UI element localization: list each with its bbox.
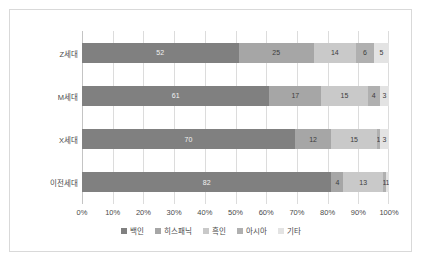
x-axis-tick: 90% xyxy=(351,208,366,217)
legend-label: 히스패닉 xyxy=(164,225,192,236)
bar-segment: 4 xyxy=(368,86,380,106)
legend-swatch-icon xyxy=(203,228,209,234)
chart-legend: 백인히스패닉흑인아시아기타 xyxy=(10,225,411,236)
bar-segment: 52 xyxy=(82,43,239,63)
legend-item[interactable]: 히스패닉 xyxy=(155,225,192,236)
legend-item[interactable]: 백인 xyxy=(121,225,144,236)
bars-layer: 5225146561171543701215138241311 xyxy=(82,31,389,204)
legend-label: 기타 xyxy=(287,225,301,236)
legend-item[interactable]: 아시아 xyxy=(237,225,267,236)
bar-row: 52251465 xyxy=(82,43,389,63)
x-axis-tick: 70% xyxy=(289,208,304,217)
category-label: Z세대 xyxy=(12,48,78,59)
x-axis-tick: 60% xyxy=(259,208,274,217)
x-axis-tick: 50% xyxy=(228,208,243,217)
x-axis-tick: 40% xyxy=(197,208,212,217)
bar-segment: 17 xyxy=(269,86,321,106)
legend-item[interactable]: 기타 xyxy=(278,225,301,236)
bar-segment: 5 xyxy=(374,43,389,63)
x-axis-tick: 30% xyxy=(167,208,182,217)
legend-swatch-icon xyxy=(155,228,161,234)
bar-segment: 15 xyxy=(331,129,377,149)
legend-label: 아시아 xyxy=(246,225,267,236)
x-axis-tick: 100% xyxy=(379,208,398,217)
chart-container: Z세대M세대X세대이전세대 52251465611715437012151382… xyxy=(9,9,412,252)
bar-segment: 3 xyxy=(380,129,389,149)
bar-row: 70121513 xyxy=(82,129,389,149)
bar-segment: 82 xyxy=(82,172,331,192)
bar-segment: 70 xyxy=(82,129,295,149)
category-label: M세대 xyxy=(12,91,78,102)
bar-segment: 25 xyxy=(239,43,314,63)
category-label: 이전세대 xyxy=(12,177,78,188)
bar-segment: 3 xyxy=(380,86,389,106)
legend-swatch-icon xyxy=(121,228,127,234)
x-axis-tick: 20% xyxy=(136,208,151,217)
category-axis: Z세대M세대X세대이전세대 xyxy=(10,31,78,204)
bar-segment: 4 xyxy=(331,172,343,192)
bar-segment: 6 xyxy=(356,43,374,63)
bar-segment: 1 xyxy=(386,172,389,192)
legend-label: 흑인 xyxy=(212,225,226,236)
bar-segment: 13 xyxy=(343,172,383,192)
legend-item[interactable]: 흑인 xyxy=(203,225,226,236)
x-axis-tick: 10% xyxy=(105,208,120,217)
legend-label: 백인 xyxy=(130,225,144,236)
x-axis-tick: 80% xyxy=(320,208,335,217)
bar-segment: 12 xyxy=(295,129,331,149)
bar-segment: 14 xyxy=(314,43,356,63)
x-axis-tick: 0% xyxy=(77,208,88,217)
bar-row: 61171543 xyxy=(82,86,389,106)
category-label: X세대 xyxy=(12,134,78,145)
legend-swatch-icon xyxy=(278,228,284,234)
legend-swatch-icon xyxy=(237,228,243,234)
bar-row: 8241311 xyxy=(82,172,389,192)
plot-area: 5225146561171543701215138241311 xyxy=(82,31,389,204)
bar-segment: 15 xyxy=(321,86,367,106)
x-axis: 0%10%20%30%40%50%60%70%80%90%100% xyxy=(82,206,389,220)
bar-segment: 61 xyxy=(82,86,269,106)
